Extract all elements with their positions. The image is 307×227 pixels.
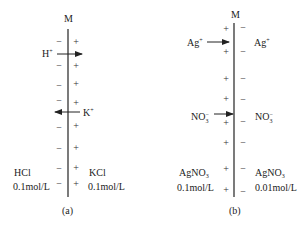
charge-sign: + — [71, 61, 81, 71]
caption-a: (a) — [62, 206, 73, 216]
charge-sign: − — [54, 164, 64, 174]
charge-sign: − — [54, 81, 64, 91]
charge-sign: − — [54, 37, 64, 47]
charge-sign: + — [71, 179, 81, 189]
charge-sign: + — [71, 79, 81, 89]
h-ion-label: H+ — [42, 49, 53, 59]
right-solution-conc-b: 0.01mol/L — [255, 183, 297, 193]
charge-sign: − — [238, 74, 248, 84]
charge-sign: − — [54, 179, 64, 189]
charge-sign: + — [71, 98, 81, 108]
right-solution-name-b: AgNO3 — [255, 168, 285, 178]
charge-sign: − — [238, 95, 248, 105]
membrane-label-b: M — [231, 10, 240, 20]
charge-sign: + — [221, 47, 231, 57]
k-ion-label: K+ — [83, 108, 94, 118]
charge-sign: + — [71, 121, 81, 131]
charge-sign: + — [71, 143, 81, 153]
charge-sign: − — [238, 47, 248, 57]
no3-ion-label-left: NO−3 — [191, 112, 210, 122]
charge-sign: − — [54, 123, 64, 133]
charge-sign: + — [221, 94, 231, 104]
charge-sign: − — [238, 164, 248, 174]
no3-ion-label-right: NO−3 — [255, 112, 274, 122]
charge-sign: + — [221, 185, 231, 195]
charge-sign: − — [238, 23, 248, 33]
charge-sign: − — [54, 144, 64, 154]
ag-ion-label-right: Ag+ — [254, 38, 270, 48]
charge-sign: + — [221, 24, 231, 34]
charge-sign: − — [238, 117, 248, 127]
charge-sign: + — [221, 74, 231, 84]
charge-sign: − — [238, 187, 248, 197]
charge-sign: + — [221, 118, 231, 128]
right-solution-name-a: KCl — [89, 168, 106, 178]
charge-sign: + — [71, 163, 81, 173]
charge-sign: + — [71, 37, 81, 47]
charge-sign: − — [54, 96, 64, 106]
charge-sign: + — [221, 138, 231, 148]
charge-sign: − — [54, 61, 64, 71]
charge-sign: + — [221, 164, 231, 174]
caption-b: (b) — [229, 206, 241, 216]
membrane-label-a: M — [64, 14, 73, 24]
left-solution-name-b: AgNO3 — [179, 168, 209, 178]
left-solution-conc-a: 0.1mol/L — [13, 182, 50, 192]
left-solution-name-a: HCl — [14, 168, 31, 178]
ag-ion-label-left: Ag+ — [187, 38, 203, 48]
charge-sign: − — [238, 138, 248, 148]
left-solution-conc-b: 0.1mol/L — [177, 183, 214, 193]
right-solution-conc-a: 0.1mol/L — [88, 182, 125, 192]
